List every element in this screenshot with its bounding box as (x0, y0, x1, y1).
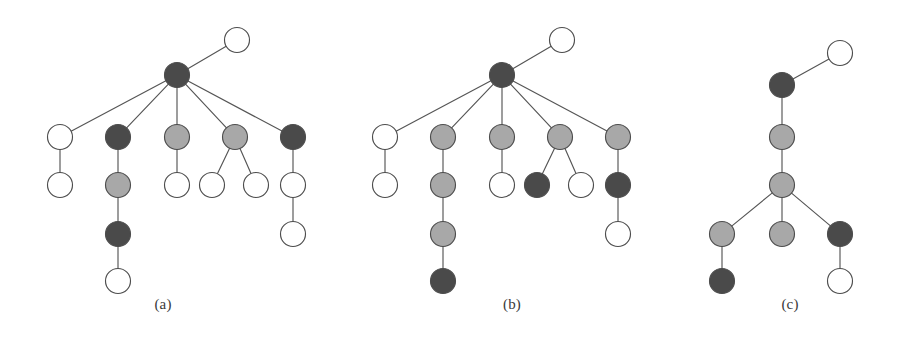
tree-node-white (606, 222, 631, 247)
tree-node-dark-gray (106, 125, 131, 150)
tree-node-light-gray (770, 125, 795, 150)
tree-edge (732, 193, 773, 226)
tree-node-light-gray (548, 125, 573, 150)
tree-edge (217, 148, 229, 173)
tree-node-dark-gray (770, 73, 795, 98)
tree-node-white (373, 125, 398, 150)
caption-a: (a) (154, 296, 171, 313)
tree-edge (71, 81, 166, 131)
tree-node-light-gray (606, 125, 631, 150)
tree-node-dark-gray (106, 222, 131, 247)
tree-node-dark-gray (490, 63, 515, 88)
tree-node-light-gray (165, 125, 190, 150)
tree-node-light-gray (770, 173, 795, 198)
tree-node-light-gray (490, 125, 515, 150)
tree-node-white (281, 222, 306, 247)
tree-node-dark-gray (431, 269, 456, 294)
tree-edge (513, 46, 551, 68)
tree-node-white (225, 28, 250, 53)
tree-edge (792, 193, 831, 226)
tree-node-light-gray (223, 125, 248, 150)
tree-node-white (48, 125, 73, 150)
trees-diagram (0, 0, 903, 357)
tree-edge (513, 81, 607, 131)
tree-node-light-gray (770, 222, 795, 247)
tree-node-white (200, 173, 225, 198)
tree-node-light-gray (431, 125, 456, 150)
tree-node-white (569, 173, 594, 198)
tree-edge (188, 81, 282, 131)
tree-edge (793, 59, 829, 79)
tree-node-dark-gray (710, 269, 735, 294)
tree-node-white (106, 269, 131, 294)
tree-node-dark-gray (281, 125, 306, 150)
tree-edge (542, 148, 554, 173)
tree-node-white (281, 173, 306, 198)
tree-node-white (828, 41, 853, 66)
tree-node-dark-gray (606, 173, 631, 198)
tree-edge (240, 148, 251, 173)
tree-node-white (373, 173, 398, 198)
tree-edge (188, 46, 226, 68)
tree-node-white (165, 173, 190, 198)
tree-node-white (828, 269, 853, 294)
caption-c: (c) (781, 296, 798, 313)
tree-node-white (550, 28, 575, 53)
tree-node-white (490, 173, 515, 198)
tree-node-light-gray (431, 222, 456, 247)
tree-node-white (48, 173, 73, 198)
tree-edge (396, 81, 491, 131)
tree-node-white (244, 173, 269, 198)
tree-node-dark-gray (525, 173, 550, 198)
tree-node-dark-gray (165, 63, 190, 88)
tree-edge (565, 148, 576, 173)
tree-node-light-gray (431, 173, 456, 198)
tree-node-dark-gray (828, 222, 853, 247)
nodes-layer (48, 28, 853, 294)
figure-root: (a) (b) (c) (0, 0, 903, 357)
caption-b: (b) (503, 296, 521, 313)
tree-node-light-gray (106, 173, 131, 198)
tree-node-light-gray (710, 222, 735, 247)
